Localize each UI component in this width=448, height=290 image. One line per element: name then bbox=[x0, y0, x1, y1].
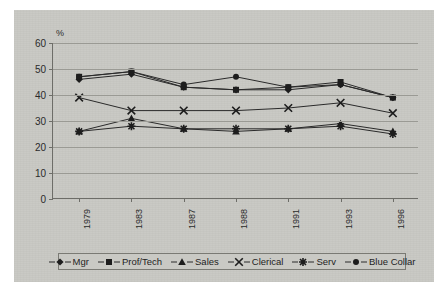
y-axis-tick bbox=[49, 43, 53, 44]
x-axis-tick-label: 1991 bbox=[291, 209, 301, 229]
data-point bbox=[389, 109, 397, 117]
y-axis-unit-label: % bbox=[56, 28, 64, 38]
y-axis-tick-label: 60 bbox=[35, 38, 46, 49]
data-point bbox=[284, 125, 292, 133]
y-axis-tick bbox=[49, 121, 53, 122]
gridline bbox=[53, 95, 418, 96]
legend-item-mgr[interactable]: Mgr bbox=[49, 257, 89, 267]
y-axis-labels: 0102030405060 bbox=[16, 43, 46, 199]
series-clerical bbox=[75, 94, 396, 117]
y-axis-tick-label: 20 bbox=[35, 142, 46, 153]
x-axis-tick-label: 1983 bbox=[134, 209, 144, 229]
legend-marker-square-icon bbox=[98, 257, 120, 267]
x-axis-tick-label: 1988 bbox=[239, 209, 249, 229]
data-point bbox=[285, 84, 291, 90]
y-axis-tick-label: 30 bbox=[35, 116, 46, 127]
legend-item-sales[interactable]: Sales bbox=[171, 257, 219, 267]
y-axis-tick bbox=[49, 69, 53, 70]
y-axis-tick-label: 0 bbox=[40, 194, 46, 205]
y-axis-tick-label: 40 bbox=[35, 90, 46, 101]
chart-screenshot: % 0102030405060 197919831987198819911993… bbox=[0, 0, 448, 290]
x-axis-tick-label: 1996 bbox=[396, 209, 406, 229]
legend-item-clerical[interactable]: Clerical bbox=[228, 257, 284, 267]
data-point bbox=[232, 125, 240, 133]
legend-item-blue-collar[interactable]: Blue Collar bbox=[345, 257, 415, 267]
y-axis-tick-label: 50 bbox=[35, 64, 46, 75]
y-axis-tick bbox=[49, 95, 53, 96]
legend-marker-x-icon bbox=[228, 257, 250, 267]
data-point bbox=[389, 130, 397, 138]
legend-label: Serv bbox=[316, 257, 336, 267]
data-point bbox=[75, 127, 83, 135]
legend-item-prof-tech[interactable]: Prof/Tech bbox=[98, 257, 162, 267]
plot-area bbox=[52, 43, 418, 199]
data-point bbox=[337, 122, 345, 130]
y-axis-tick bbox=[49, 147, 53, 148]
x-axis-tick-label: 1993 bbox=[344, 209, 354, 229]
legend-item-serv[interactable]: Serv bbox=[292, 257, 336, 267]
legend-marker-circle-icon bbox=[345, 257, 367, 267]
y-axis-tick bbox=[49, 173, 53, 174]
data-point bbox=[338, 82, 344, 88]
legend-label: Prof/Tech bbox=[122, 257, 162, 267]
legend-marker-triangle-icon bbox=[171, 257, 193, 267]
x-axis-tick-label: 1979 bbox=[82, 209, 92, 229]
chart-canvas: % 0102030405060 197919831987198819911993… bbox=[14, 10, 434, 282]
x-axis-labels: 1979198319871988199119931996 bbox=[52, 199, 418, 249]
legend-label: Mgr bbox=[73, 257, 89, 267]
legend-label: Clerical bbox=[252, 257, 284, 267]
legend-label: Blue Collar bbox=[369, 257, 415, 267]
data-point bbox=[76, 74, 82, 80]
gridline bbox=[53, 69, 418, 70]
legend-marker-asterisk-icon bbox=[292, 257, 314, 267]
chart-legend: MgrProf/TechSalesClericalServBlue Collar bbox=[58, 253, 406, 270]
gridline bbox=[53, 173, 418, 174]
y-axis-tick-label: 10 bbox=[35, 168, 46, 179]
gridline bbox=[53, 121, 418, 122]
legend-marker-diamond-icon bbox=[49, 257, 71, 267]
gridline bbox=[53, 43, 418, 44]
legend-label: Sales bbox=[195, 257, 219, 267]
data-point bbox=[127, 122, 135, 130]
data-point bbox=[180, 125, 188, 133]
data-point bbox=[233, 87, 239, 93]
data-point bbox=[233, 74, 239, 80]
x-axis-tick-label: 1987 bbox=[187, 209, 197, 229]
gridline bbox=[53, 147, 418, 148]
data-point bbox=[181, 82, 187, 88]
